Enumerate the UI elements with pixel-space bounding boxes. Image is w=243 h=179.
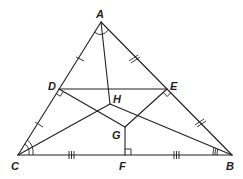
- label-f: F: [119, 160, 126, 172]
- right-angle-mark-f: [125, 149, 131, 155]
- label-c: C: [11, 160, 20, 172]
- segment-eg: [125, 89, 167, 127]
- segment-ch: [18, 104, 110, 155]
- angle-arc-b: [213, 147, 218, 155]
- label-a: A: [95, 8, 104, 20]
- right-angle-mark-e: [163, 92, 171, 96]
- label-e: E: [170, 80, 178, 92]
- label-g: G: [112, 129, 121, 141]
- label-d: D: [48, 80, 56, 92]
- label-b: B: [226, 160, 234, 172]
- label-h: H: [113, 93, 122, 105]
- triangle-diagram: A B C D E F G H: [0, 0, 243, 179]
